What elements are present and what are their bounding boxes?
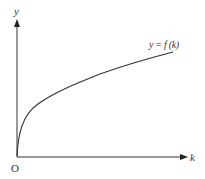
x-axis-label: k [190, 152, 195, 163]
y-axis-arrow-icon [14, 19, 20, 27]
curve-f-k [17, 52, 173, 156]
diagram: y k O y = f (k) [0, 0, 205, 179]
curve-label: y = f (k) [149, 40, 179, 50]
x-axis-arrow-icon [180, 154, 188, 160]
origin-label: O [11, 163, 19, 174]
plot-area [0, 0, 205, 179]
y-axis-label: y [14, 6, 19, 17]
